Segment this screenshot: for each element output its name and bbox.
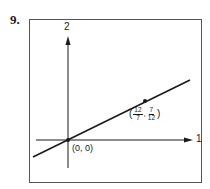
origin-label: (0, 0) [72,144,93,153]
y-fraction: 7 12 [147,107,156,121]
x-fraction: 12 7 [133,107,142,121]
horizontal-axis-label: 1 [196,134,202,144]
separator: , [144,110,146,118]
open-paren: ( [129,109,132,119]
coordinate-diagram [0,0,210,189]
plotted-line [33,80,190,157]
point-a-dot [143,99,147,103]
x-denominator: 7 [135,115,141,122]
y-denominator: 12 [147,115,156,122]
origin-point [66,138,70,142]
figure-frame [30,20,202,183]
horizontal-axis-arrow-icon [184,138,193,143]
vertical-axis-label: 2 [64,22,70,32]
vertical-axis-arrow-icon [66,36,71,45]
close-paren: ) [157,109,160,119]
point-a-label: ( 12 7 , 7 12 ) [129,107,160,121]
